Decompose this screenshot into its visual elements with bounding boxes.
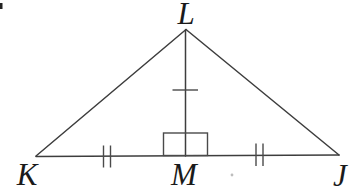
triangle-lines bbox=[36, 30, 339, 157]
vertex-label-K: K bbox=[16, 157, 40, 191]
vertex-label-L: L bbox=[176, 0, 194, 31]
vertex-label-M: M bbox=[170, 157, 199, 192]
scan-artifact-dot bbox=[231, 174, 234, 177]
vertex-label-J: J bbox=[333, 158, 348, 191]
scan-artifact-top-left bbox=[0, 3, 3, 9]
triangle-klj-diagram: L K M J bbox=[0, 0, 351, 191]
geometry-figure-canvas: L K M J bbox=[0, 0, 351, 191]
vertex-labels: L K M J bbox=[16, 0, 348, 191]
side-LJ bbox=[186, 30, 339, 156]
